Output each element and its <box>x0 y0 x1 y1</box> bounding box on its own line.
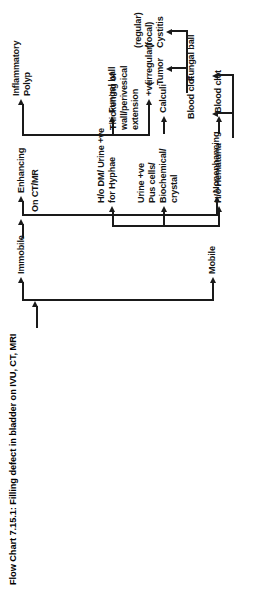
edge-mobile-urine <box>163 211 165 227</box>
node-thickening-line1: Thickening of <box>108 73 119 130</box>
node-urine-line3: Biochemical/ <box>158 149 169 203</box>
arrow-urine <box>161 206 167 212</box>
chart-title: Flow Chart 7.15.1: Filling defect in bla… <box>8 334 19 585</box>
arrow-root <box>32 301 38 307</box>
node-on-ct-mr: On CT/MR <box>30 169 41 212</box>
spine-enhancing <box>22 134 150 136</box>
node-mobile: Mobile <box>207 246 218 274</box>
spine-positive <box>186 30 188 93</box>
arrow-nonenhancing <box>214 196 220 202</box>
node-thickening-line3: extension <box>130 89 141 130</box>
flowchart-canvas: Flow Chart 7.15.1: Filling defect in bla… <box>0 0 278 593</box>
edge-root-immobile <box>22 282 24 301</box>
edge-positive-tumor <box>172 67 186 69</box>
arrow-positive <box>146 99 152 105</box>
node-tumor-line1: Tumor <box>155 58 166 85</box>
node-tumor-line2: (irregular) <box>144 44 155 85</box>
arrow-blood-clot-2 <box>212 111 218 117</box>
edge-enhancing-polyp <box>22 104 24 136</box>
edge-mobile-hematuria <box>218 211 220 227</box>
node-cystitis-line1: Cystitis <box>155 16 166 48</box>
node-immobile: Immobile <box>16 235 27 274</box>
spine-on-ct-mr <box>22 214 218 216</box>
arrow-cystitis <box>166 29 172 35</box>
edge-root-mobile <box>212 282 214 301</box>
arrow-enhancing <box>18 196 24 202</box>
edge-immobile-onct <box>22 224 24 238</box>
edge-positive-cystitis <box>172 30 186 32</box>
node-blood-clot-nonenhancing: Blood clot <box>186 76 197 119</box>
node-fungal-ball-nonenhancing: Fungal ball <box>186 35 197 81</box>
arrow-dm <box>109 206 115 212</box>
edge-nonenh-fungal <box>218 74 232 76</box>
node-thickening-line2: wall/perivesical <box>119 66 130 130</box>
flowchart-page: Flow Chart 7.15.1: Filling defect in bla… <box>0 0 278 593</box>
arrow-blood-clot-1 <box>216 116 222 122</box>
node-nonenhancing: Nonenhancing <box>211 132 222 193</box>
node-polyp-line1: Inflammatory <box>11 41 22 96</box>
spine-nonenhancing <box>232 74 234 138</box>
arrow-tumor <box>166 66 172 72</box>
node-dm-line2: for Hyphae <box>107 157 118 203</box>
edge-enhancing-thickening <box>148 104 150 136</box>
node-urine-line2: Pus cells/ <box>147 163 158 203</box>
arrow-on-ct-mr <box>18 219 24 225</box>
spine-main <box>22 299 214 301</box>
node-cystitis-line2: (focal) <box>144 22 155 48</box>
spine-mobile <box>112 225 220 227</box>
arrow-mobile <box>210 277 216 283</box>
node-cystitis-line3: (regular) <box>133 12 144 48</box>
edge-mobile-dm <box>112 211 114 227</box>
edge-urine-calculi <box>163 121 165 134</box>
node-calculi: Calculi <box>158 84 169 113</box>
edge-nonenh-bloodclot <box>218 112 232 114</box>
node-dm-line1: H/o DM/ Urine +ve <box>96 128 107 203</box>
node-enhancing: Enhancing <box>16 148 27 193</box>
node-polyp-line2: Polyp <box>22 72 33 96</box>
node-urine-line4: crystal <box>169 175 180 203</box>
edge-onct-nonenhancing <box>216 201 218 216</box>
arrow-polyp <box>18 99 24 105</box>
node-urine-line1: Urine +ve <box>136 163 147 203</box>
arrow-fungal-ball-2 <box>212 73 218 79</box>
arrow-calculi <box>161 116 167 122</box>
arrow-immobile <box>18 277 24 283</box>
edge-onct-enhancing <box>22 201 24 216</box>
edge-root-stem <box>36 306 38 328</box>
